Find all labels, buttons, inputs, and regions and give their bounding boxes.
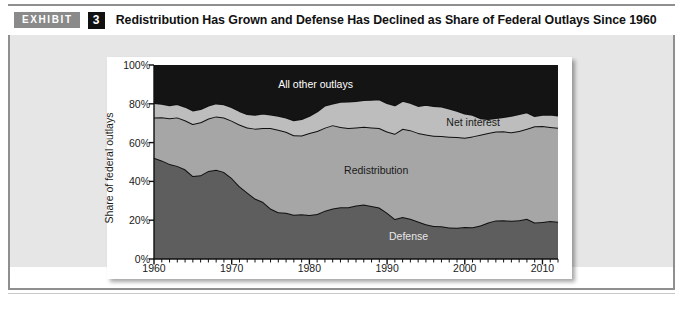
x-tick-label: 2010 <box>531 262 554 274</box>
series-label-all-other-outlays: All other outlays <box>278 78 353 90</box>
y-tick-label: 80% <box>129 98 150 110</box>
plot-area: All other outlaysNet interestRedistribut… <box>154 65 558 259</box>
x-tick-label: 2000 <box>453 262 476 274</box>
exhibit-header: EXHIBIT 3 Redistribution Has Grown and D… <box>8 8 675 32</box>
y-tick-label: 60% <box>129 137 150 149</box>
y-tick-label: 100% <box>123 59 150 71</box>
series-label-redistribution: Redistribution <box>344 164 408 176</box>
x-axis-ticks: 196019701980199020002010 <box>154 262 558 276</box>
footer-left-rule <box>8 267 10 290</box>
exhibit-figure: EXHIBIT 3 Redistribution Has Grown and D… <box>0 0 683 315</box>
x-tick-label: 1960 <box>142 262 165 274</box>
series-label-defense: Defense <box>389 230 428 242</box>
bottom-divider <box>8 288 675 290</box>
panel-right-rule <box>673 35 675 267</box>
x-tick-label: 1970 <box>220 262 243 274</box>
stacked-area-chart <box>154 65 558 259</box>
bottom-divider-secondary <box>8 293 675 294</box>
x-tick-label: 1990 <box>375 262 398 274</box>
y-tick-label: 20% <box>129 214 150 226</box>
y-axis-ticks: 0%20%40%60%80%100% <box>107 65 150 259</box>
panel-left-rule <box>8 35 10 267</box>
exhibit-title: Redistribution Has Grown and Defense Has… <box>116 13 657 27</box>
y-tick-label: 40% <box>129 175 150 187</box>
chart-card: Share of federal outlays 0%20%40%60%80%1… <box>107 57 572 279</box>
footer-right-rule <box>673 267 675 290</box>
series-label-net-interest: Net interest <box>446 116 500 128</box>
exhibit-number-badge: 3 <box>88 12 105 29</box>
x-tick-label: 1980 <box>298 262 321 274</box>
top-divider <box>8 4 675 6</box>
exhibit-badge: EXHIBIT <box>14 12 80 28</box>
